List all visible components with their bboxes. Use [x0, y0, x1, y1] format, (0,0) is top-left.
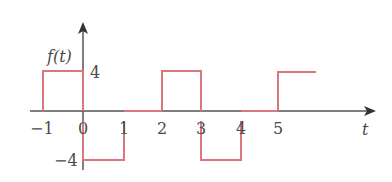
x-tick-3: 3	[196, 119, 206, 138]
x-tick-1: 1	[119, 119, 129, 138]
y-tick-4: 4	[90, 63, 100, 82]
x-tick-4: 4	[236, 119, 246, 138]
x-axis-label: t	[362, 120, 369, 139]
x-tick-5: 5	[273, 119, 283, 138]
x-tick-2: 2	[157, 119, 167, 138]
x-tick-neg1: −1	[30, 119, 54, 138]
y-tick-neg4: −4	[54, 151, 78, 170]
x-axis	[30, 106, 376, 116]
x-tick-0: 0	[78, 119, 88, 138]
y-axis-label: f(t)	[46, 47, 72, 66]
waveform-figure: f(t) t 4 −4 −1 0 1 2 3 4 5	[0, 0, 392, 182]
signal-waveform	[43, 71, 316, 160]
